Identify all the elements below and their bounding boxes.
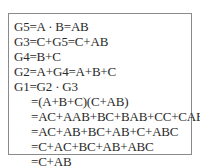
equation-step-3: =AC+AB+BC+AB+C+ABC bbox=[31, 124, 178, 139]
equation-g3: G3=C+G5=C+AB bbox=[14, 34, 108, 49]
equation-step-1: =(A+B+C)(C+AB) bbox=[31, 94, 128, 109]
equation-g4: G4=B+C bbox=[14, 49, 61, 64]
equation-g1: G1=G2 · G3 bbox=[14, 79, 78, 94]
equation-g2: G2=A+G4=A+B+C bbox=[14, 64, 116, 79]
equation-step-2: =AC+AAB+BC+BAB+CC+CAB bbox=[31, 109, 200, 124]
equation-step-4: =C+AC+BC+AB+ABC bbox=[31, 139, 154, 154]
derivation-box: G5=A · B=AB G3=C+G5=C+AB G4=B+C G2=A+G4=… bbox=[8, 13, 192, 155]
equation-result: =C+AB bbox=[31, 154, 71, 167]
equation-g5: G5=A · B=AB bbox=[14, 19, 89, 34]
